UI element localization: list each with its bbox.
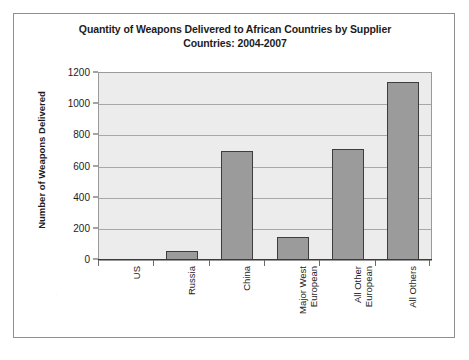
bar — [221, 151, 253, 260]
bar-slot — [210, 73, 265, 260]
y-axis-tick-label: 200 — [73, 222, 90, 233]
x-axis-tick-label: All Others — [407, 266, 418, 336]
x-axis-tick-label: Russia — [186, 266, 197, 336]
y-axis-tick-label: 1000 — [68, 98, 90, 109]
x-axis-tick-label: China — [241, 266, 252, 336]
bar-slot — [99, 73, 154, 260]
x-axis-tick-label: Major West European — [297, 266, 319, 336]
y-axis-tick-label: 400 — [73, 191, 90, 202]
x-axis-tick-labels: USRussiaChinaMajor West EuropeanAll Othe… — [98, 266, 430, 336]
chart-title-line-2: Countries: 2004-2007 — [26, 36, 444, 50]
y-axis-tick-labels: 020040060080010001200 — [58, 72, 94, 259]
page-background: Quantity of Weapons Delivered to African… — [0, 0, 469, 360]
y-axis-label: Number of Weapons Delivered — [36, 60, 50, 260]
chart-title: Quantity of Weapons Delivered to African… — [26, 22, 444, 50]
bar-series — [99, 73, 431, 260]
bar — [332, 149, 364, 260]
y-axis-tick-label: 1200 — [68, 67, 90, 78]
chart-title-line-1: Quantity of Weapons Delivered to African… — [26, 22, 444, 36]
y-axis-tick-label: 800 — [73, 129, 90, 140]
x-axis-tick-label: US — [131, 266, 142, 336]
bar-slot — [265, 73, 320, 260]
x-axis-tick-label: All Other European — [352, 266, 374, 336]
bar — [387, 82, 419, 260]
plot-area — [98, 72, 432, 261]
bar-slot — [376, 73, 431, 260]
y-axis-tick-label: 0 — [84, 254, 90, 265]
y-axis-tick-label: 600 — [73, 160, 90, 171]
bar-slot — [320, 73, 375, 260]
bar-slot — [154, 73, 209, 260]
bar — [277, 237, 309, 260]
